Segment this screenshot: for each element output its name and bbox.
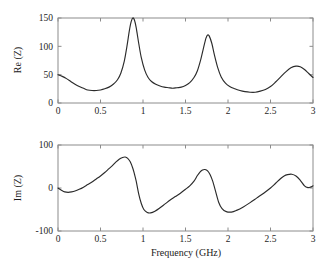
- x-tick-label: 1: [141, 234, 146, 244]
- panel-re-z: 00.511.522.53 050100150 Re (Z): [12, 13, 316, 116]
- x-tick-label: 1: [141, 106, 146, 116]
- figure-container: 00.511.522.53 050100150 Re (Z) 00.511.52…: [0, 0, 336, 272]
- im-y-tick-marks: [58, 145, 313, 231]
- panel-im-z: 00.511.522.53 -1000100 Im (Z) Frequency …: [12, 140, 316, 259]
- y-tick-label: 0: [48, 183, 53, 193]
- x-tick-label: 0: [56, 234, 61, 244]
- y-tick-label: -100: [36, 226, 54, 236]
- y-tick-label: 150: [39, 13, 54, 23]
- x-tick-label: 2.5: [265, 106, 277, 116]
- re-y-axis-title: Re (Z): [12, 47, 24, 73]
- im-plot-frame: [58, 145, 313, 231]
- im-z-curve: [58, 157, 313, 213]
- y-tick-label: 100: [39, 42, 54, 52]
- im-x-tick-marks: [58, 145, 313, 231]
- y-tick-label: 50: [44, 70, 54, 80]
- im-x-tick-labels: 00.511.522.53: [56, 234, 316, 244]
- re-z-curve: [58, 18, 313, 92]
- y-tick-label: 100: [39, 140, 54, 150]
- im-y-tick-labels: -1000100: [36, 140, 54, 236]
- re-x-tick-labels: 00.511.522.53: [56, 106, 316, 116]
- x-tick-label: 1.5: [180, 234, 192, 244]
- im-y-axis-title: Im (Z): [12, 175, 24, 201]
- figure-svg: 00.511.522.53 050100150 Re (Z) 00.511.52…: [0, 0, 336, 272]
- frequency-axis-title: Frequency (GHz): [151, 247, 221, 259]
- x-tick-label: 0.5: [95, 234, 107, 244]
- x-tick-label: 2: [226, 234, 231, 244]
- x-tick-label: 0: [56, 106, 61, 116]
- x-tick-label: 3: [311, 234, 316, 244]
- x-tick-label: 2.5: [265, 234, 277, 244]
- x-tick-label: 2: [226, 106, 231, 116]
- re-y-tick-labels: 050100150: [39, 13, 54, 108]
- x-tick-label: 1.5: [180, 106, 192, 116]
- x-tick-label: 3: [311, 106, 316, 116]
- y-tick-label: 0: [48, 98, 53, 108]
- x-tick-label: 0.5: [95, 106, 107, 116]
